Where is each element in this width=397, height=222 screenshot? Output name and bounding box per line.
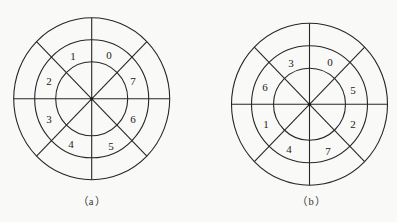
sector-label: 6 bbox=[262, 81, 268, 93]
diagram-a: 1 0 7 6 5 4 3 2 （a） bbox=[14, 18, 170, 207]
sector-label: 4 bbox=[68, 138, 74, 150]
sector-label: 3 bbox=[46, 113, 52, 125]
center-dot bbox=[90, 97, 93, 100]
sector-label: 5 bbox=[350, 84, 356, 96]
sector-label: 4 bbox=[286, 143, 292, 155]
center-dot bbox=[308, 103, 311, 106]
diagram-b: 3 0 5 2 7 4 1 6 （b） bbox=[232, 23, 388, 207]
sector-label: 1 bbox=[263, 118, 269, 130]
sector-label: 7 bbox=[325, 145, 331, 157]
sector-label: 2 bbox=[46, 75, 52, 87]
sector-label: 7 bbox=[130, 75, 136, 87]
sector-label: 5 bbox=[108, 140, 114, 152]
sector-label: 0 bbox=[106, 49, 112, 61]
sector-label: 0 bbox=[327, 56, 333, 68]
caption-a: （a） bbox=[78, 196, 106, 207]
sector-label: 2 bbox=[350, 118, 356, 130]
caption-b: （b） bbox=[297, 196, 325, 207]
sector-label: 6 bbox=[130, 113, 136, 125]
sector-label: 3 bbox=[288, 57, 294, 69]
sector-label: 1 bbox=[70, 50, 76, 62]
figure-canvas: 1 0 7 6 5 4 3 2 （a） 3 0 5 2 7 4 1 6 （b） bbox=[0, 0, 397, 222]
